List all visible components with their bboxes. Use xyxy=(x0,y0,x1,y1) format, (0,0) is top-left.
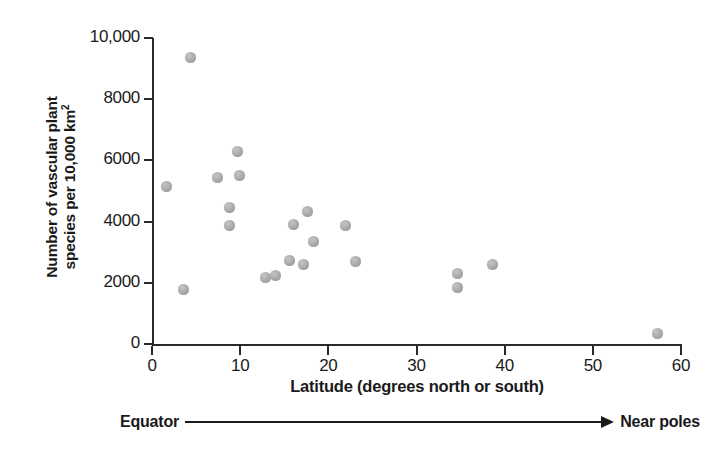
data-point xyxy=(298,259,309,270)
data-point xyxy=(232,146,243,157)
data-point xyxy=(270,270,281,281)
annotation-left-label: Equator xyxy=(120,413,179,431)
x-axis-title: Latitude (degrees north or south) xyxy=(152,377,682,396)
latitude-direction-annotation: Equator Near poles xyxy=(120,408,700,436)
data-point xyxy=(178,284,189,295)
data-point xyxy=(652,328,663,339)
right-arrow-icon xyxy=(185,416,614,428)
data-point xyxy=(234,170,245,181)
data-point xyxy=(284,255,295,266)
data-point xyxy=(212,172,223,183)
data-point xyxy=(340,220,351,231)
data-point xyxy=(452,282,463,293)
data-point xyxy=(288,219,299,230)
data-point xyxy=(185,52,196,63)
data-point xyxy=(224,202,235,213)
data-point xyxy=(302,206,313,217)
data-point xyxy=(487,259,498,270)
data-point xyxy=(350,256,361,267)
data-point xyxy=(161,181,172,192)
annotation-right-label: Near poles xyxy=(620,413,700,431)
data-point xyxy=(224,220,235,231)
data-point xyxy=(452,268,463,279)
scatter-plot-figure: Number of vascular plant species per 10,… xyxy=(0,0,715,454)
data-point xyxy=(308,236,319,247)
